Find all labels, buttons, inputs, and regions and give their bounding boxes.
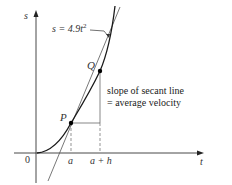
equation-exponent: 2 <box>83 22 87 30</box>
origin-label: 0 <box>25 155 30 165</box>
tick-a-plus-h-label: a + h <box>90 156 112 166</box>
curve-equation: s = 4.9t2 <box>52 23 86 34</box>
point-q-label: Q <box>87 60 95 71</box>
annotation-line-2: = average velocity <box>107 98 181 108</box>
t-axis-arrow-icon <box>197 151 204 156</box>
t-axis-label: t <box>200 157 203 167</box>
s-axis-arrow-icon <box>34 10 39 17</box>
annotation-line-1: slope of secant line <box>107 86 184 96</box>
equation-lhs: s = 4.9 <box>52 23 80 34</box>
point-q <box>98 69 102 73</box>
equation-leader <box>90 30 108 36</box>
point-p <box>69 121 73 125</box>
point-p-label: P <box>60 112 67 123</box>
s-axis-label: s <box>24 11 28 21</box>
tick-a-label: a <box>68 156 73 166</box>
